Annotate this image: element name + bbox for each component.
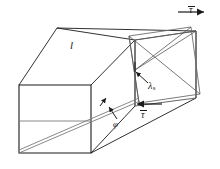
helix-line-lower bbox=[19, 101, 140, 153]
edge-top-left-diagonal bbox=[19, 28, 57, 85]
prism-back-edges bbox=[19, 28, 196, 153]
undeformed-end-face bbox=[135, 31, 196, 106]
edge-top-right-diagonal bbox=[91, 40, 135, 85]
front-face-outline bbox=[19, 85, 91, 153]
end-face-diagonals bbox=[129, 27, 200, 103]
lambda-subscript: s bbox=[152, 84, 155, 92]
tau-top-label: τ bbox=[189, 5, 193, 15]
end-face-diagonal-a bbox=[129, 36, 200, 94]
helix-line-upper bbox=[19, 98, 139, 150]
end-face-diagonal-c bbox=[135, 31, 196, 70]
helix-tick-arrow bbox=[100, 98, 106, 106]
diagram-canvas bbox=[0, 0, 220, 169]
tau-bottom-label: τ bbox=[141, 110, 145, 120]
end-face-left-rotated-vertical bbox=[129, 36, 139, 103]
helix-shear-lines bbox=[19, 98, 140, 153]
shear-angle-label: λs bbox=[148, 81, 156, 92]
lambda-leader-arrow bbox=[136, 72, 148, 83]
twist-angle-label: φ bbox=[113, 120, 118, 129]
prism-front-face bbox=[19, 85, 91, 153]
torsion-diagram-figure: τ τ l λs φ bbox=[0, 0, 220, 169]
length-label: l bbox=[70, 40, 73, 51]
edge-bottom-long bbox=[91, 98, 196, 153]
end-face-top-edge-dup bbox=[135, 31, 196, 40]
end-face-reference-outline bbox=[135, 31, 196, 106]
